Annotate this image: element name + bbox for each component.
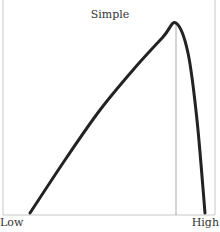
x-axis-low-label: Low bbox=[0, 216, 23, 229]
chart-title: Simple bbox=[0, 8, 220, 21]
x-axis-high-label: High bbox=[192, 216, 219, 229]
data-curve bbox=[30, 23, 205, 213]
chart-canvas bbox=[0, 0, 220, 232]
